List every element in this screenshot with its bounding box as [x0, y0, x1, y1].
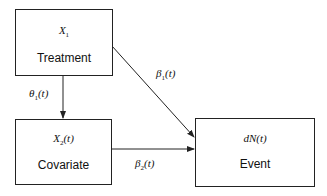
- node-treatment: X1 Treatment: [15, 9, 113, 76]
- node-label: Treatment: [16, 51, 112, 65]
- coef-suffix: (t): [38, 87, 48, 99]
- edge-label-beta1: β1(t): [156, 67, 175, 82]
- var-suffix: (t): [63, 132, 73, 144]
- edge-label-beta2: β2(t): [135, 157, 154, 172]
- var-symbol: X: [53, 132, 60, 144]
- node-label: Event: [196, 157, 314, 171]
- node-variable: X2(t): [16, 132, 111, 147]
- var-subscript: 1: [66, 31, 70, 39]
- node-variable: dN(t): [196, 132, 314, 144]
- edge-treatment-event: [112, 46, 194, 137]
- node-variable: X1: [16, 24, 112, 39]
- var-symbol: dN(t): [243, 132, 266, 144]
- coef-suffix: (t): [144, 157, 154, 169]
- node-covariate: X2(t) Covariate: [15, 119, 112, 185]
- node-label: Covariate: [16, 158, 111, 172]
- edge-label-theta1: θ1(t): [29, 87, 48, 102]
- var-symbol: X: [59, 24, 66, 36]
- coef-suffix: (t): [165, 67, 175, 79]
- node-event: dN(t) Event: [195, 118, 315, 187]
